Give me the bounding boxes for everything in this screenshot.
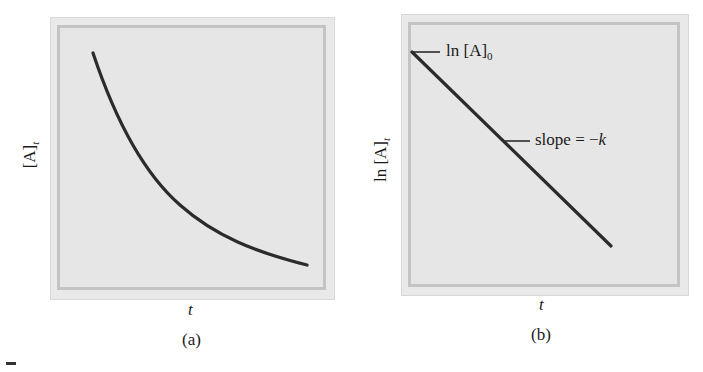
panel-label-b: (b)	[531, 325, 551, 345]
linear-plot-b	[0, 0, 703, 372]
slope-label-main: slope = −	[535, 130, 599, 149]
slope-label-var: k	[599, 130, 607, 149]
slope-label: slope = −k	[535, 130, 606, 150]
panel-b: ln [A]0 slope = −k ln [A]t t (b)	[0, 0, 703, 372]
y-axis-title-b: ln [A]t	[371, 129, 391, 191]
x-axis-title-b: t	[539, 295, 544, 315]
caption-fragment	[6, 362, 16, 365]
intercept-label-main: ln [A]	[446, 41, 487, 60]
intercept-label-sub: 0	[487, 50, 493, 62]
intercept-label: ln [A]0	[446, 41, 493, 61]
y-axis-title-main: ln [A]	[371, 141, 390, 182]
y-axis-title-sub: t	[380, 138, 392, 141]
